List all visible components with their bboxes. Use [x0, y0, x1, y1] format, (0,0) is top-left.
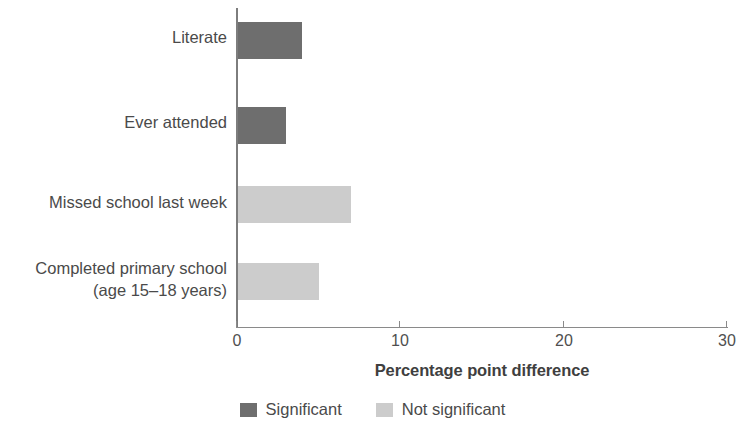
category-label-line2: (age 15–18 years): [35, 280, 227, 302]
x-axis-tick-label: 0: [233, 332, 242, 350]
chart-legend: Significant Not significant: [0, 400, 745, 419]
legend-label: Not significant: [402, 400, 506, 419]
bar-ever-attended: [237, 107, 286, 144]
legend-item-not-significant: Not significant: [376, 400, 506, 419]
horizontal-bar-chart: Literate Ever attended Missed school las…: [0, 0, 745, 439]
bar-literate: [237, 22, 302, 59]
bar-completed-primary-school: [237, 263, 319, 300]
x-axis-tick-0: [236, 321, 237, 328]
x-axis-tick-30: [726, 321, 727, 328]
x-axis-tick-label: 20: [555, 332, 573, 350]
legend-swatch-icon: [240, 403, 257, 417]
legend-label: Significant: [266, 400, 342, 419]
category-label-completed-primary-school: Completed primary school (age 15–18 year…: [35, 258, 227, 302]
legend-item-significant: Significant: [240, 400, 342, 419]
category-label-line1: Missed school last week: [49, 193, 227, 211]
category-label-missed-school-last-week: Missed school last week: [49, 192, 227, 214]
plot-area: [237, 8, 727, 328]
x-axis-tick-label: 30: [718, 332, 736, 350]
x-axis-tick-label: 10: [391, 332, 409, 350]
bar-missed-school-last-week: [237, 186, 351, 223]
x-axis-tick-10: [399, 321, 400, 328]
category-label-literate: Literate: [172, 27, 227, 49]
category-label-ever-attended: Ever attended: [124, 112, 227, 134]
x-axis-tick-20: [563, 321, 564, 328]
legend-swatch-icon: [376, 403, 393, 417]
y-axis-line: [236, 8, 238, 328]
x-axis-title: Percentage point difference: [237, 361, 727, 380]
category-label-line1: Literate: [172, 28, 227, 46]
category-label-line1: Ever attended: [124, 113, 227, 131]
category-label-line1: Completed primary school: [35, 258, 227, 280]
x-axis-line: [236, 327, 728, 328]
